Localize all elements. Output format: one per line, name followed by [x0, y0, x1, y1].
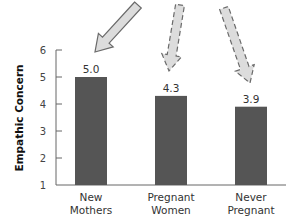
category-label: New: [80, 191, 103, 203]
dashed-arrow-icon: [162, 4, 185, 71]
category-label: Women: [151, 204, 191, 216]
y-tick-label: 6: [40, 45, 46, 56]
y-tick-label: 3: [40, 126, 46, 137]
category-label: Pregnant: [147, 191, 194, 203]
solid-arrow-icon: [95, 2, 141, 52]
bar-value-label: 5.0: [83, 63, 100, 75]
bar: [235, 107, 267, 185]
category-label: Pregnant: [227, 204, 274, 216]
bar-value-label: 4.3: [163, 82, 180, 94]
y-tick-label: 4: [40, 99, 46, 110]
bar: [155, 96, 187, 185]
category-label: Mothers: [70, 204, 113, 216]
bar-chart: Empathic Concern 123456 5.0NewMothers4.3…: [0, 0, 299, 223]
bar: [75, 77, 107, 185]
y-tick-label: 1: [40, 180, 46, 191]
bar-value-label: 3.9: [243, 93, 260, 105]
y-tick-label: 5: [40, 72, 46, 83]
dashed-arrow-icon: [220, 7, 255, 84]
category-label: Never: [235, 191, 267, 203]
y-tick-label: 2: [40, 153, 46, 164]
y-axis-title: Empathic Concern: [13, 64, 25, 171]
annotation-arrows: [95, 2, 254, 83]
